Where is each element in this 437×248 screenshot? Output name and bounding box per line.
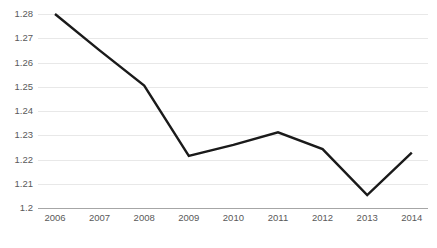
y-axis-tick-label: 1.27 <box>3 34 33 44</box>
plot-area <box>38 14 428 208</box>
y-axis-tick-label: 1.22 <box>3 155 33 165</box>
x-axis-tick-label: 2007 <box>78 212 122 224</box>
x-axis-tick-label: 2006 <box>33 212 77 224</box>
y-axis-tick-label: 1.21 <box>3 179 33 189</box>
y-axis-tick-label: 1.28 <box>3 9 33 19</box>
x-axis-tick-label: 2013 <box>345 212 389 224</box>
data-series-line <box>55 14 412 195</box>
x-axis-line <box>38 208 428 209</box>
y-axis: 1.281.271.261.251.241.231.221.211.2 <box>0 14 33 208</box>
y-axis-tick-label: 1.2 <box>3 203 33 213</box>
x-axis-tick-label: 2008 <box>122 212 166 224</box>
x-axis-tick-label: 2012 <box>301 212 345 224</box>
x-axis-tick-label: 2009 <box>167 212 211 224</box>
y-axis-tick-label: 1.25 <box>3 82 33 92</box>
x-axis: 200620072008200920102011201220132014 <box>38 212 428 230</box>
x-axis-tick-label: 2011 <box>256 212 300 224</box>
x-axis-tick-label: 2014 <box>390 212 434 224</box>
x-axis-tick-label: 2010 <box>211 212 255 224</box>
y-axis-tick-label: 1.24 <box>3 106 33 116</box>
y-axis-tick-label: 1.26 <box>3 58 33 68</box>
series-layer <box>38 14 428 208</box>
y-axis-tick-label: 1.23 <box>3 131 33 141</box>
line-chart: 1.281.271.261.251.241.231.221.211.2 2006… <box>0 0 437 248</box>
